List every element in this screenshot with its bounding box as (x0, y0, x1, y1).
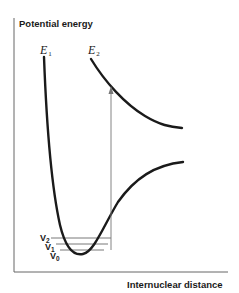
x-axis-label: Internuclear distance (127, 279, 223, 290)
curve-label-e1: E1 (39, 43, 52, 58)
level-v0-label: V0 (50, 251, 60, 262)
curve-label-e2: E2 (87, 43, 100, 58)
y-axis-label: Potential energy (19, 18, 94, 29)
curve-e1 (44, 57, 183, 254)
curve-e2 (91, 59, 182, 128)
potential-energy-diagram: Potential energy Internuclear distance E… (0, 0, 239, 293)
